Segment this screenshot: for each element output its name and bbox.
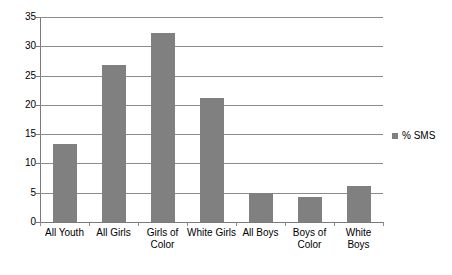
x-tick-mark [138,222,139,226]
bar [200,98,224,222]
y-tick-label: 10 [6,158,36,168]
bars-layer [40,17,383,222]
x-axis-labels: All YouthAll GirlsGirls of ColorWhite Gi… [40,227,383,261]
x-tick-mark [383,222,384,226]
bar [151,33,175,222]
x-axis-label: White Girls [187,227,236,239]
x-axis-label: All Boys [236,227,285,239]
y-tick-label: 0 [6,217,36,227]
x-axis-label: All Youth [40,227,89,239]
bar [347,186,371,222]
y-tick-label: 20 [6,100,36,110]
x-axis-label: Girls of Color [138,227,187,251]
y-tick-label: 25 [6,71,36,81]
x-axis-label: Boys of Color [285,227,334,251]
bar [102,65,126,222]
x-tick-mark [187,222,188,226]
bar [298,197,322,222]
bar [249,193,273,222]
y-tick-label: 30 [6,41,36,51]
legend-swatch-icon [392,133,398,139]
bar [53,144,77,222]
legend-label: % SMS [402,131,435,141]
x-tick-mark [89,222,90,226]
x-axis-label: White Boys [334,227,383,251]
y-tick-label: 15 [6,129,36,139]
x-tick-mark [236,222,237,226]
y-tick-label: 5 [6,188,36,198]
chart-legend: % SMS [392,131,435,141]
y-tick-label: 35 [6,12,36,22]
x-tick-mark [285,222,286,226]
x-tick-mark [40,222,41,226]
bar-chart: 05101520253035 All YouthAll GirlsGirls o… [0,0,452,275]
y-axis-ticks: 05101520253035 [0,17,36,222]
x-axis-label: All Girls [89,227,138,239]
x-tick-mark [334,222,335,226]
